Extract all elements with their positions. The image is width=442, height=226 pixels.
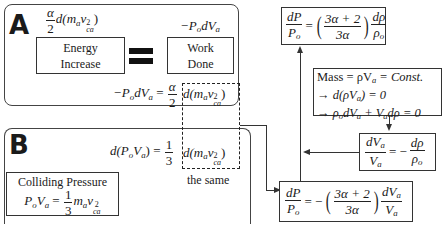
connector-a-to-bottom-v: [266, 125, 267, 190]
shared-term-dashed-bracket: [182, 83, 240, 169]
equals-sign-top-bar: [129, 48, 153, 54]
the-same-caption: the same: [187, 173, 229, 188]
work-expression: −PodVa: [180, 18, 220, 34]
colliding-pressure-box: Colliding Pressure PoVa = 13mav2ca: [6, 172, 119, 216]
work-done-box: Work Done: [167, 37, 234, 74]
energy-increase-box: Energy Increase: [36, 37, 125, 74]
pressure-density-box: dPPo = (3α + 23α) dρρo: [281, 7, 386, 45]
arrow-from-ratio-box: [303, 149, 310, 155]
panel-b-equation: d(PoVa) = 13: [110, 138, 174, 167]
volume-density-ratio-box: dVaVa = − dρρo: [359, 133, 436, 171]
panel-a-label: A: [9, 10, 29, 40]
connector-bottom-to-top: [300, 52, 301, 199]
connector-ratio-to-main: [310, 152, 359, 153]
pressure-volume-box: dPPo = − (3α + 23α) dVaVa: [279, 181, 413, 222]
panel-a-equation: −PodVa = α2: [113, 80, 178, 109]
panel-b-label: B: [9, 130, 29, 160]
equals-sign-bottom-bar: [129, 58, 153, 64]
energy-expression: α2d(mav2ca): [45, 6, 98, 35]
arrow-to-ratio-box: [386, 124, 392, 131]
arrow-to-top-box: [297, 46, 303, 53]
mass-conservation-box: Mass = ρVa = Const. → d(ρVa) = 0 → ρodVa…: [313, 68, 442, 116]
connector-a-to-bottom-h: [240, 125, 266, 126]
